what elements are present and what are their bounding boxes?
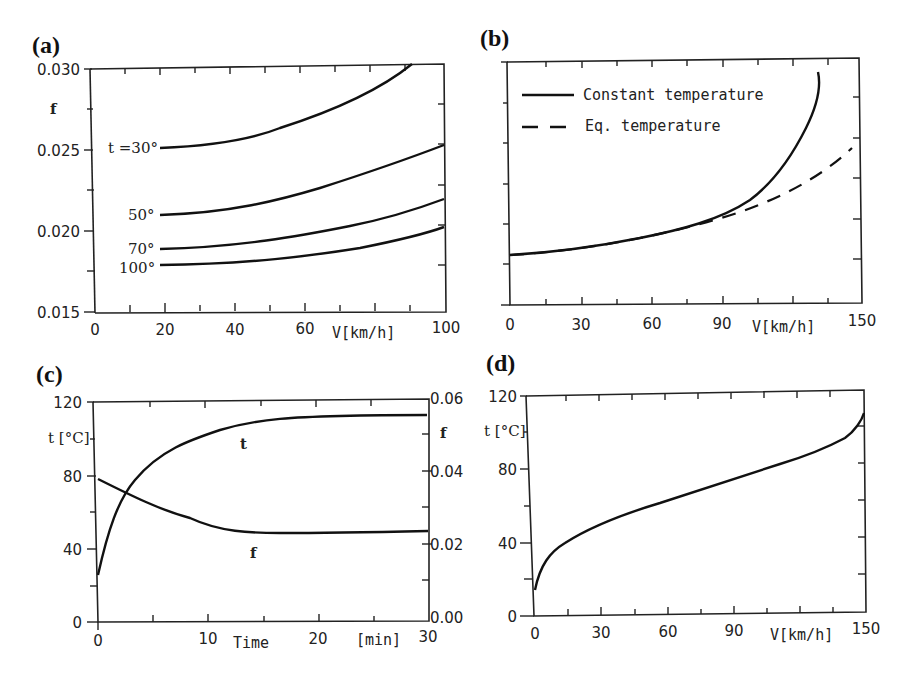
x-tick: 30 — [418, 628, 437, 646]
x-tick: 150 — [848, 312, 877, 330]
curve-t-vs-v — [535, 413, 864, 590]
x-tick: 30 — [591, 624, 610, 642]
x-tick: 150 — [852, 620, 881, 638]
curve-label: 50° — [128, 206, 155, 224]
x-tick: 30 — [571, 316, 590, 334]
x-axis-label: Time — [233, 634, 269, 652]
curve-t70 — [160, 199, 444, 249]
legend: Constant temperature Eq. temperature — [522, 86, 764, 135]
x-tick: 90 — [724, 622, 743, 640]
x-tick: 0 — [90, 321, 100, 339]
panel-d-label: (d) — [486, 350, 515, 376]
panel-b-label: (b) — [480, 25, 509, 51]
x-tick: 10 — [198, 630, 217, 648]
y2-tick: 0.00 — [430, 609, 463, 627]
x-axis-label: V[km/h] — [752, 318, 815, 336]
y-axis-label: t [°C] — [48, 429, 89, 447]
curve-t30 — [160, 64, 412, 148]
y-axis-label: t [°C] — [484, 422, 525, 440]
x-axis-label: V[km/h] — [770, 626, 833, 644]
y2-tick: 0.02 — [430, 536, 463, 554]
x-tick: 60 — [658, 623, 677, 641]
y-tick: 80 — [498, 461, 517, 479]
panel-c-label: (c) — [36, 361, 63, 387]
x-tick: 20 — [308, 630, 327, 648]
y-tick: 0.030 — [37, 61, 80, 79]
legend-item: Eq. temperature — [585, 117, 720, 135]
panel-a: (a) — [32, 32, 460, 342]
panel-d-frame — [526, 390, 866, 616]
x-tick: 60 — [642, 315, 661, 333]
x-tick: 60 — [295, 320, 314, 338]
curve-eq-temperature — [510, 148, 852, 255]
y-tick: 0 — [72, 614, 82, 632]
x-tick: 20 — [155, 321, 174, 339]
y-tick: 40 — [498, 535, 517, 553]
legend-item: Constant temperature — [583, 86, 764, 104]
y-tick: 0 — [507, 608, 517, 626]
x-tick: 40 — [225, 321, 244, 339]
y2-axis-label: f — [440, 424, 448, 442]
figure: (a) — [0, 0, 904, 677]
y-tick: 80 — [63, 468, 82, 486]
panel-c-frame — [93, 399, 429, 622]
y-tick: 120 — [53, 394, 82, 412]
panel-d: (d) — [484, 350, 880, 644]
y-tick: 0.020 — [37, 223, 80, 241]
curve-label: 70° — [128, 240, 155, 258]
y2-tick: 0.04 — [430, 463, 463, 481]
y-axis-label: f — [50, 100, 58, 118]
curve-label: t — [240, 435, 247, 453]
curve-label: t =30° — [108, 139, 158, 157]
curve-t — [98, 415, 427, 575]
panel-b: (b) — [480, 25, 876, 336]
x-tick: 100 — [432, 319, 461, 337]
x-axis-unit: [min] — [356, 631, 401, 649]
y-tick: 0.025 — [37, 142, 80, 160]
x-tick: 0 — [530, 625, 540, 643]
x-tick: 0 — [505, 316, 515, 334]
y-tick: 0.015 — [37, 304, 80, 322]
x-axis-label: V[km/h] — [332, 324, 395, 342]
curve-f — [98, 479, 428, 533]
curve-label: 100° — [119, 259, 155, 277]
curve-label: f — [250, 544, 258, 562]
curve-t50 — [160, 145, 444, 215]
panel-c: (c) — [36, 361, 463, 652]
x-tick: 0 — [93, 632, 103, 650]
y-tick: 40 — [63, 541, 82, 559]
y2-tick: 0.06 — [430, 390, 463, 408]
panel-a-label: (a) — [32, 32, 60, 58]
y-tick: 120 — [488, 388, 517, 406]
x-tick: 90 — [712, 315, 731, 333]
